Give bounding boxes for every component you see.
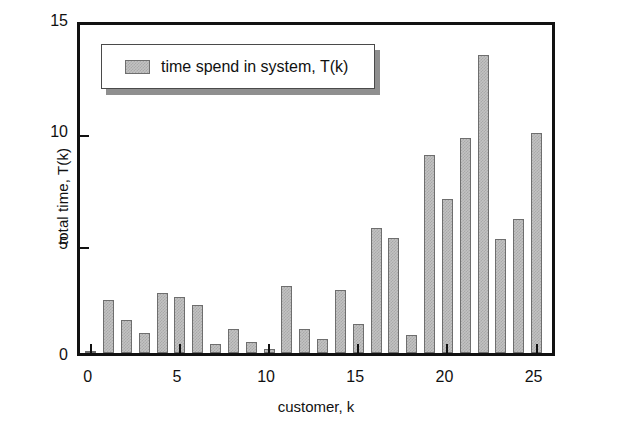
- bar: [192, 305, 203, 353]
- x-axis-tick: [90, 344, 92, 353]
- bar: [388, 238, 399, 353]
- x-axis-tick: [268, 344, 270, 353]
- x-axis-tick: [536, 344, 538, 353]
- bar: [513, 219, 524, 353]
- y-axis-tick-label: 15: [22, 12, 68, 30]
- bar: [121, 320, 132, 353]
- bar: [246, 342, 257, 353]
- x-axis-tick: [179, 344, 181, 353]
- y-axis-tick-label: 0: [22, 346, 68, 364]
- chart-figure: total time, T(k) customer, k 051015 0510…: [0, 0, 624, 433]
- bar: [228, 329, 239, 353]
- bar: [335, 290, 346, 353]
- legend-swatch-icon: [125, 60, 150, 74]
- bar: [157, 293, 168, 353]
- x-axis-tick-label: 10: [246, 368, 286, 386]
- bar: [424, 155, 435, 353]
- bar: [139, 333, 150, 353]
- y-axis-tick: [80, 135, 89, 137]
- legend-label: time spend in system, T(k): [161, 58, 348, 76]
- y-axis-title: total time, T(k): [54, 47, 71, 347]
- bar: [460, 138, 471, 353]
- bar: [103, 300, 114, 353]
- bar: [371, 228, 382, 353]
- x-axis-tick: [446, 344, 448, 353]
- x-axis-tick-label: 15: [335, 368, 375, 386]
- x-axis-tick-label: 0: [68, 368, 108, 386]
- chart-legend: time spend in system, T(k): [101, 44, 375, 89]
- y-axis-tick-label: 5: [22, 235, 68, 253]
- bar: [406, 335, 417, 353]
- bar: [281, 286, 292, 353]
- bar: [478, 55, 489, 353]
- bar: [531, 133, 542, 353]
- bar: [317, 339, 328, 353]
- bar: [210, 344, 221, 353]
- y-axis-tick-label: 10: [22, 123, 68, 141]
- x-axis-tick: [357, 344, 359, 353]
- x-axis-title: customer, k: [77, 398, 555, 415]
- x-axis-tick-label: 5: [157, 368, 197, 386]
- bar: [442, 199, 453, 353]
- x-axis-tick-label: 20: [424, 368, 464, 386]
- x-axis-tick-label: 25: [514, 368, 554, 386]
- bar: [495, 239, 506, 353]
- y-axis-tick: [80, 247, 89, 249]
- bar: [299, 329, 310, 353]
